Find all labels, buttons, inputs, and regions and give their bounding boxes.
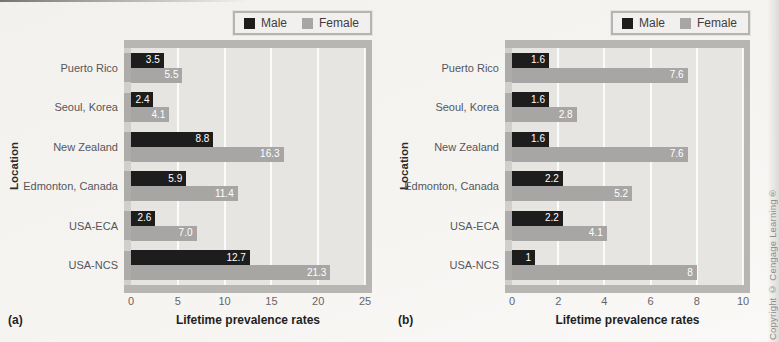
female-bar: 11.4 xyxy=(131,186,238,201)
category-label: Edmonton, Canada xyxy=(23,180,118,192)
bar-group: 12.721.3 xyxy=(131,246,365,286)
x-tick-label: 0 xyxy=(128,295,134,307)
bar-value-label: 3.5 xyxy=(146,55,164,65)
bar-group: 1.67.6 xyxy=(512,48,743,88)
male-bar: 2.6 xyxy=(131,211,155,226)
chart-panel-a: Male Female Location Puerto RicoSeoul, K… xyxy=(0,0,390,342)
category-label: Puerto Rico xyxy=(61,62,118,74)
female-bar: 5.2 xyxy=(512,186,632,201)
category-label: Seoul, Korea xyxy=(435,101,499,113)
x-tick-label: 20 xyxy=(312,295,324,307)
bar-group: 5.911.4 xyxy=(131,167,365,207)
male-bar: 1.6 xyxy=(512,92,549,107)
bar-group: 2.67.0 xyxy=(131,206,365,246)
category-label: Seoul, Korea xyxy=(54,101,118,113)
category-labels: Puerto RicoSeoul, KoreaNew ZealandEdmont… xyxy=(0,48,124,285)
legend-female-label: Female xyxy=(697,17,737,29)
category-label: Puerto Rico xyxy=(442,62,499,74)
bar-group: 18 xyxy=(512,246,743,286)
bar-value-label: 2.2 xyxy=(545,213,563,223)
female-bar: 5.5 xyxy=(131,68,182,83)
male-bar: 2.2 xyxy=(512,211,563,226)
male-bar: 2.2 xyxy=(512,171,563,186)
female-bar: 4.1 xyxy=(512,226,607,241)
legend-entry-male: Male xyxy=(244,17,287,29)
x-tick-label: 6 xyxy=(648,295,654,307)
bar-value-label: 1.6 xyxy=(531,134,549,144)
legend-male-label: Male xyxy=(261,17,287,29)
panel-label: (b) xyxy=(398,313,413,327)
legend-male-label: Male xyxy=(639,17,665,29)
bar-value-label: 5.9 xyxy=(168,174,186,184)
category-label: New Zealand xyxy=(434,141,499,153)
female-bar: 7.0 xyxy=(131,226,197,241)
legend-male-swatch xyxy=(244,18,255,29)
category-label: USA-ECA xyxy=(450,220,499,232)
panel-label: (a) xyxy=(8,313,23,327)
bar-value-label: 1.6 xyxy=(531,95,549,105)
bar-value-label: 11.4 xyxy=(215,189,238,199)
bar-value-label: 7.6 xyxy=(670,70,688,80)
legend-female-swatch xyxy=(680,18,691,29)
female-bar: 2.8 xyxy=(512,107,577,122)
bar-value-label: 7.0 xyxy=(179,228,197,238)
female-bar: 8 xyxy=(512,265,697,280)
x-tick-label: 10 xyxy=(218,295,230,307)
bar-value-label: 2.2 xyxy=(545,174,563,184)
male-bar: 12.7 xyxy=(131,250,250,265)
category-label: USA-NCS xyxy=(68,259,118,271)
bar-value-label: 5.5 xyxy=(165,70,183,80)
bar-value-label: 12.7 xyxy=(226,253,249,263)
female-bar: 16.3 xyxy=(131,147,284,162)
figure-canvas: Male Female Location Puerto RicoSeoul, K… xyxy=(0,0,779,342)
category-label: USA-ECA xyxy=(69,220,118,232)
bar-value-label: 16.3 xyxy=(260,149,283,159)
x-axis-ticks: 0246810 xyxy=(512,295,743,309)
y-axis-spine xyxy=(505,48,512,285)
bar-value-label: 2.8 xyxy=(559,110,577,120)
y-axis-spine xyxy=(124,48,131,285)
chart-panel-b: Male Female Location Puerto RicoSeoul, K… xyxy=(390,0,760,342)
bar-group: 2.25.2 xyxy=(512,167,743,207)
x-tick-label: 5 xyxy=(175,295,181,307)
x-tick-label: 2 xyxy=(555,295,561,307)
legend: Male Female xyxy=(233,11,372,35)
bar-group: 3.55.5 xyxy=(131,48,365,88)
legend-female-label: Female xyxy=(319,17,359,29)
bar-value-label: 4.1 xyxy=(589,228,607,238)
category-label: New Zealand xyxy=(53,141,118,153)
bar-value-label: 1 xyxy=(526,253,536,263)
x-axis-title: Lifetime prevalence rates xyxy=(505,313,750,327)
category-label: Edmonton, Canada xyxy=(404,180,499,192)
female-bar: 7.6 xyxy=(512,68,688,83)
legend: Male Female xyxy=(611,11,750,35)
female-bar: 7.6 xyxy=(512,147,688,162)
bar-value-label: 5.2 xyxy=(614,189,632,199)
x-tick-label: 0 xyxy=(509,295,515,307)
male-bar: 2.4 xyxy=(131,92,153,107)
bar-group: 1.62.8 xyxy=(512,87,743,127)
legend-male-swatch xyxy=(622,18,633,29)
x-axis-title: Lifetime prevalence rates xyxy=(124,313,372,327)
plot-inner: 1.67.61.62.81.67.62.25.22.24.118 xyxy=(512,48,743,285)
plot-inner: 3.55.52.44.18.816.35.911.42.67.012.721.3 xyxy=(131,48,365,285)
bar-value-label: 4.1 xyxy=(151,110,169,120)
bar-value-label: 1.6 xyxy=(531,55,549,65)
male-bar: 3.5 xyxy=(131,53,164,68)
category-labels: Puerto RicoSeoul, KoreaNew ZealandEdmont… xyxy=(390,48,505,285)
bar-value-label: 21.3 xyxy=(307,268,330,278)
bar-value-label: 2.4 xyxy=(136,95,154,105)
x-tick-label: 15 xyxy=(265,295,277,307)
plot-area: 3.55.52.44.18.816.35.911.42.67.012.721.3 xyxy=(124,40,372,293)
x-tick-label: 10 xyxy=(737,295,749,307)
male-bar: 1.6 xyxy=(512,132,549,147)
bar-value-label: 2.6 xyxy=(137,213,155,223)
x-axis-ticks: 0510152025 xyxy=(131,295,365,309)
copyright-notice: Copyright © Cengage Learning® xyxy=(767,148,778,340)
legend-female-swatch xyxy=(302,18,313,29)
bar-group: 2.44.1 xyxy=(131,87,365,127)
category-label: USA-NCS xyxy=(449,259,499,271)
female-bar: 4.1 xyxy=(131,107,169,122)
x-tick-label: 25 xyxy=(359,295,371,307)
male-bar: 1 xyxy=(512,250,535,265)
